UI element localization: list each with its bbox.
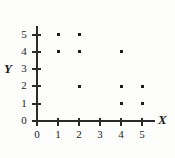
data-point — [120, 102, 123, 105]
data-point — [78, 33, 81, 36]
x-tick-label-3: 3 — [93, 129, 107, 140]
y-axis-line — [36, 26, 38, 122]
y-tick-label-0: 0 — [18, 115, 30, 126]
y-tick-label-2: 2 — [18, 80, 30, 91]
x-tick-0 — [36, 118, 38, 126]
y-tick-label-3: 3 — [18, 63, 30, 74]
data-point — [57, 33, 60, 36]
data-point — [120, 85, 123, 88]
y-tick-4 — [32, 51, 41, 53]
x-tick-1 — [57, 118, 59, 126]
x-axis-line — [36, 120, 155, 122]
y-axis-title: Y — [4, 62, 12, 75]
data-point — [78, 85, 81, 88]
data-point — [78, 50, 81, 53]
data-point — [141, 102, 144, 105]
x-axis-title: X — [158, 113, 167, 126]
y-tick-3 — [32, 68, 41, 70]
y-tick-label-5: 5 — [18, 29, 30, 40]
x-tick-label-4: 4 — [114, 129, 128, 140]
scatter-plot: 012345 012345 Y X — [0, 0, 175, 158]
y-tick-5 — [32, 34, 41, 36]
y-tick-1 — [32, 103, 41, 105]
x-tick-4 — [120, 118, 122, 126]
data-point — [141, 85, 144, 88]
data-point — [57, 50, 60, 53]
x-tick-label-2: 2 — [72, 129, 86, 140]
x-tick-2 — [78, 118, 80, 126]
y-tick-label-1: 1 — [18, 98, 30, 109]
x-tick-label-0: 0 — [30, 129, 44, 140]
y-tick-2 — [32, 85, 41, 87]
x-tick-3 — [99, 118, 101, 126]
y-tick-label-4: 4 — [18, 46, 30, 57]
x-tick-label-5: 5 — [135, 129, 149, 140]
data-point — [120, 50, 123, 53]
x-tick-label-1: 1 — [51, 129, 65, 140]
x-tick-5 — [141, 118, 143, 126]
plot-area: 012345 012345 Y X — [0, 0, 175, 158]
